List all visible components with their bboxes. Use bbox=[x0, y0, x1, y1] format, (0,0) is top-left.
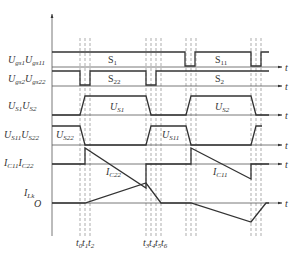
row-ugs1 bbox=[52, 52, 282, 67]
svg-text:t: t bbox=[285, 159, 288, 170]
annot-us11: US11 bbox=[162, 129, 179, 142]
label-ugs1: Ugs1Ugs11 bbox=[8, 54, 45, 67]
annot-us1: US1 bbox=[110, 101, 124, 114]
t6-label: t6 bbox=[161, 237, 168, 250]
annot-us2: US2 bbox=[215, 101, 230, 114]
svg-text:t: t bbox=[285, 198, 288, 209]
row-ugs2 bbox=[52, 71, 282, 86]
label-us: US1US2 bbox=[8, 100, 37, 113]
annot-ic22: IC22 bbox=[105, 166, 122, 179]
waveform-ic bbox=[52, 148, 269, 188]
t2-label: t2 bbox=[88, 237, 95, 250]
svg-text:t: t bbox=[285, 110, 288, 121]
waveform-ugs2 bbox=[52, 71, 269, 85]
annot-s1: S1 bbox=[108, 54, 118, 67]
annot-ic11: IC11 bbox=[212, 166, 228, 179]
annot-s11: S11 bbox=[215, 54, 228, 67]
row-us bbox=[52, 96, 282, 115]
row-labels: Ugs1Ugs11 Ugs2Ugs22 US1US2 US11US22 IC11… bbox=[3, 54, 46, 209]
svg-text:t: t bbox=[285, 81, 288, 92]
waveform-ilk bbox=[52, 183, 269, 222]
label-origin: O bbox=[34, 198, 41, 209]
row-ilk bbox=[52, 183, 282, 222]
annot-us22: US22 bbox=[56, 129, 74, 142]
waveform-us bbox=[52, 96, 269, 115]
waveform-us11 bbox=[52, 126, 262, 145]
label-us11: US11US22 bbox=[4, 129, 39, 142]
time-mark-labels: t0 t1 t2 t3 t4 t5 t6 bbox=[76, 237, 168, 250]
annot-s22: S22 bbox=[108, 73, 121, 86]
annot-s2: S2 bbox=[215, 73, 225, 86]
waveform-annotations: S1 S11 S22 S2 US1 US2 US22 US11 IC22 IC1… bbox=[56, 54, 230, 179]
time-axis-labels: t t t t t t bbox=[285, 62, 288, 209]
waveform-ugs1 bbox=[52, 52, 269, 66]
row-ic bbox=[52, 148, 282, 188]
label-ic: IC11IC22 bbox=[3, 157, 34, 170]
label-ugs2: Ugs2Ugs22 bbox=[8, 73, 46, 86]
svg-text:t: t bbox=[285, 62, 288, 73]
timing-diagram: t t t t t t Ugs1Ugs11 Ugs2Ugs22 US1US2 U… bbox=[0, 0, 299, 257]
svg-text:t: t bbox=[285, 140, 288, 151]
